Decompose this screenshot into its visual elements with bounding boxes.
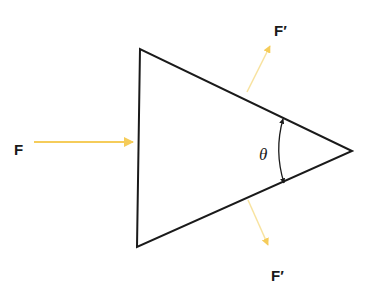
wedge-diagram: F F′ F′ θ bbox=[0, 0, 371, 297]
wedge-triangle bbox=[137, 49, 352, 247]
output-force-bottom-label: F′ bbox=[271, 267, 284, 284]
input-force-label: F bbox=[14, 141, 23, 158]
output-force-top-label: F′ bbox=[274, 22, 287, 39]
angle-label: θ bbox=[259, 145, 267, 164]
output-force-top-arrow bbox=[247, 46, 270, 92]
angle-arc bbox=[279, 119, 284, 183]
output-force-bottom-arrow bbox=[248, 200, 268, 245]
